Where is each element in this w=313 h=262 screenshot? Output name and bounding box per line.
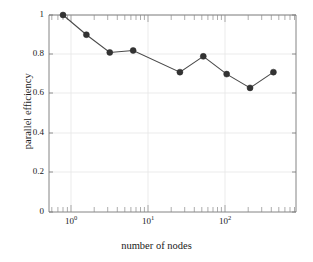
x-tick-mantissa-0: 10 [65,216,74,226]
axis-frame [49,15,296,212]
x-tick-marks-minor-bottom [52,205,295,212]
gridlines-vertical [71,15,225,212]
x-tick-label-10e2: 102 [210,217,240,226]
data-point [200,53,206,59]
data-point [247,85,253,91]
data-point [130,47,136,53]
series-markers-parallel-efficiency [60,12,276,91]
y-tick-marks [49,15,296,212]
x-tick-exponent-2: 2 [228,214,231,221]
series-line-parallel-efficiency [63,15,273,88]
data-point [177,69,183,75]
x-tick-marks-minor-top [52,15,295,22]
y-axis-label: parallel efficiency [23,21,34,201]
x-tick-mantissa-1: 10 [142,216,151,226]
data-point [224,71,230,77]
chart-figure: 1 0.8 0.6 0.4 0.2 0 100 101 102 number o… [0,0,313,262]
x-tick-exponent-1: 1 [151,214,154,221]
gridlines-horizontal [49,15,296,172]
x-tick-mantissa-2: 10 [219,216,228,226]
data-point [107,49,113,55]
y-tick-label-1: 1 [18,10,44,19]
data-point [83,32,89,38]
x-tick-label-10e0: 100 [56,217,86,226]
data-point [270,69,276,75]
x-tick-exponent-0: 0 [74,214,77,221]
y-tick-label-0: 0 [18,207,44,216]
x-tick-label-10e1: 101 [133,217,163,226]
x-axis-label: number of nodes [0,241,313,252]
data-point [60,12,66,18]
